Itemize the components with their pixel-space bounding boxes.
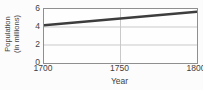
x-tick-label: 1800 (180, 63, 203, 73)
y-axis-label-line2: (in millions) (12, 0, 21, 70)
population-line-chart: Population (in millions) 0246 1700175018… (0, 0, 203, 90)
plot-canvas (44, 9, 197, 63)
y-tick-label: 6 (22, 3, 40, 13)
y-axis-label-line1: Population (3, 0, 12, 70)
y-tick-label: 2 (22, 39, 40, 49)
plot-area (43, 8, 198, 64)
y-tick-label: 4 (22, 21, 40, 31)
x-axis-label: Year (43, 76, 196, 86)
y-axis-label: Population (in millions) (3, 0, 23, 70)
x-tick-label: 1750 (104, 63, 136, 73)
x-tick-label: 1700 (27, 63, 59, 73)
